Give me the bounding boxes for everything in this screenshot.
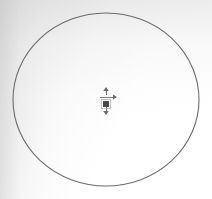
marker-grip-square-icon[interactable] xyxy=(103,101,109,107)
marker-arrow-right-icon xyxy=(113,94,117,99)
marker-arrow-down-icon xyxy=(103,111,109,115)
center-point-marker[interactable] xyxy=(100,87,117,115)
drawing-layer xyxy=(0,0,212,199)
drawing-canvas[interactable] xyxy=(0,0,212,199)
marker-arrow-up-icon xyxy=(103,87,109,91)
